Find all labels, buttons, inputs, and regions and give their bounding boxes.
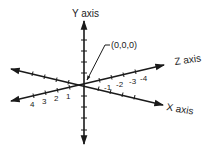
tick-label-neg-4: -4	[140, 74, 148, 83]
tick-label-4: 4	[30, 100, 35, 109]
origin-pointer	[87, 45, 110, 80]
tick-label-neg-2: -2	[116, 80, 124, 89]
y-axis-label: Y axis	[72, 8, 99, 19]
y-axis	[81, 21, 87, 144]
tick-label-1: 1	[66, 92, 71, 101]
z-axis-label: Z axis	[174, 52, 202, 67]
negative-tick-labels: -1 -2 -3 -4	[104, 74, 148, 92]
tick-label-3: 3	[42, 97, 47, 106]
tick-label-2: 2	[54, 94, 59, 103]
tick-label-neg-3: -3	[129, 77, 137, 86]
x-axis-label: X axis	[166, 101, 195, 117]
z-axis	[11, 65, 164, 101]
tick-label-neg-1: -1	[104, 83, 112, 92]
axes-diagram: Y axis Z axis X axis (0,0,0) 4 3 2 1 -1 …	[0, 0, 207, 157]
origin-label: (0,0,0)	[111, 40, 137, 50]
